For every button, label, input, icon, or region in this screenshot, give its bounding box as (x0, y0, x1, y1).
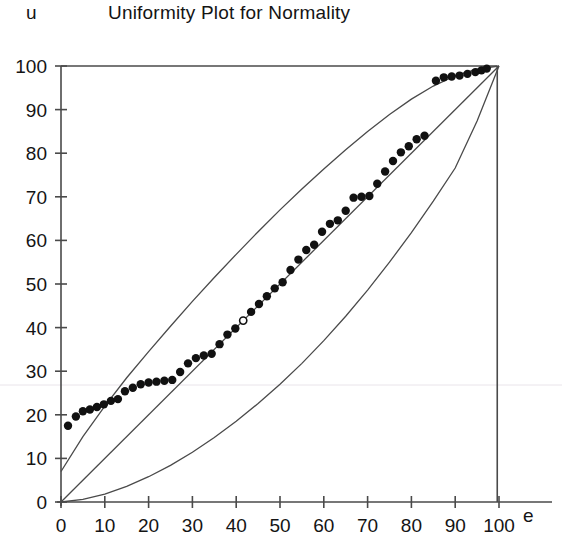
data-point (129, 384, 137, 392)
data-point (255, 300, 263, 308)
x-tick-label: 30 (182, 515, 203, 536)
y-tick-label: 50 (26, 274, 47, 295)
data-point (263, 292, 271, 300)
data-point (373, 180, 381, 188)
data-point (432, 77, 440, 85)
y-tick-label: 80 (26, 143, 47, 164)
data-point (137, 380, 145, 388)
data-point (223, 330, 231, 338)
data-point (168, 376, 176, 384)
data-point (326, 220, 334, 228)
data-point (381, 167, 389, 175)
data-point (64, 422, 72, 430)
y-tick-label: 30 (26, 361, 47, 382)
data-point (342, 207, 350, 215)
x-tick-label: 90 (445, 515, 466, 536)
data-point (357, 193, 365, 201)
y-tick-label: 60 (26, 230, 47, 251)
data-point (483, 64, 491, 72)
data-point (318, 227, 326, 235)
x-tick-label: 70 (357, 515, 378, 536)
data-point (271, 284, 279, 292)
data-point (184, 359, 192, 367)
data-point (412, 135, 420, 143)
x-tick-label: 60 (313, 515, 334, 536)
data-point (231, 324, 239, 332)
data-point (160, 377, 168, 385)
data-point (286, 266, 294, 274)
data-point (440, 73, 448, 81)
y-tick-label: 90 (26, 100, 47, 121)
data-point (200, 351, 208, 359)
data-point (302, 246, 310, 254)
data-point (397, 148, 405, 156)
data-point (79, 407, 87, 415)
x-tick-label: 40 (226, 515, 247, 536)
data-point (215, 340, 223, 348)
y-tick-label: 20 (26, 405, 47, 426)
data-point (294, 255, 302, 263)
data-point (107, 397, 115, 405)
upper-confidence-band (61, 66, 499, 471)
x-tick-label: 100 (483, 515, 515, 536)
data-point (405, 142, 413, 150)
uniformity-plot: u Uniformity Plot for Normality e 010203… (0, 0, 562, 555)
data-point (365, 192, 373, 200)
data-point (278, 278, 286, 286)
data-point (334, 216, 342, 224)
axes (57, 66, 552, 506)
data-point (192, 354, 200, 362)
y-tick-label: 100 (15, 56, 47, 77)
data-point (420, 132, 428, 140)
data-point (207, 350, 215, 358)
data-point-highlighted (240, 317, 247, 324)
data-point (463, 70, 471, 78)
data-points (64, 64, 491, 429)
x-tick-label: 50 (269, 515, 290, 536)
y-tick-label: 40 (26, 318, 47, 339)
data-point (114, 395, 122, 403)
data-point (121, 387, 129, 395)
data-point (144, 378, 152, 386)
data-point (349, 193, 357, 201)
x-tick-label: 20 (138, 515, 159, 536)
data-point (176, 368, 184, 376)
x-tick-label: 10 (94, 515, 115, 536)
x-tick-label: 0 (56, 515, 67, 536)
y-tick-label: 0 (36, 492, 47, 513)
data-point (448, 72, 456, 80)
data-point (247, 308, 255, 316)
y-tick-label: 10 (26, 448, 47, 469)
data-point (455, 71, 463, 79)
data-point (389, 157, 397, 165)
y-tick-label: 70 (26, 187, 47, 208)
plot-canvas: 0102030405060708090100010203040506070809… (0, 0, 562, 555)
x-tick-label: 80 (401, 515, 422, 536)
data-point (152, 377, 160, 385)
data-point (72, 412, 80, 420)
data-point (310, 241, 318, 249)
